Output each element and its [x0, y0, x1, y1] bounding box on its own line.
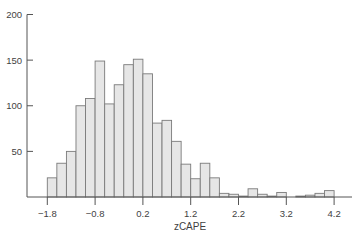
y-tick-label: 100 — [6, 100, 22, 111]
histogram-bar — [57, 163, 67, 197]
histogram-bar — [325, 191, 335, 197]
x-tick-label: 0.2 — [136, 208, 149, 219]
histogram-bar — [210, 178, 220, 197]
y-tick-label: 150 — [6, 55, 22, 66]
x-tick-label: 1.2 — [184, 208, 197, 219]
histogram-bar — [191, 179, 201, 197]
histogram-bar — [76, 106, 86, 197]
histogram-bar — [162, 120, 172, 197]
histogram-bar — [114, 85, 124, 197]
x-tick-label: 4.2 — [327, 208, 340, 219]
histogram-chart: 50100150200 −1.8−0.80.21.22.23.24.2 zCAP… — [0, 0, 359, 243]
x-tick-label: −1.8 — [38, 208, 57, 219]
histogram-bar — [315, 193, 325, 197]
x-tick-label: −0.8 — [86, 208, 105, 219]
x-tick-label: 2.2 — [232, 208, 245, 219]
y-tick-label: 50 — [11, 146, 22, 157]
y-axis-ticks: 50100150200 — [6, 9, 33, 157]
x-axis-ticks: −1.8−0.80.21.22.23.24.2 — [38, 197, 341, 219]
x-tick-label: 3.2 — [280, 208, 293, 219]
histogram-bar — [181, 164, 191, 197]
histogram-bar — [172, 141, 182, 197]
x-axis-title: zCAPE — [174, 221, 207, 232]
y-tick-label: 200 — [6, 9, 22, 20]
histogram-bars — [47, 59, 334, 197]
histogram-bar — [105, 104, 115, 197]
histogram-bar — [47, 178, 57, 197]
histogram-bar — [248, 189, 258, 197]
histogram-bar — [133, 59, 143, 197]
histogram-bar — [143, 74, 153, 197]
histogram-bar — [219, 193, 229, 197]
histogram-bar — [86, 98, 96, 197]
histogram-bar — [95, 61, 105, 197]
histogram-bar — [124, 65, 134, 197]
histogram-bar — [66, 151, 76, 197]
histogram-bar — [277, 192, 287, 197]
histogram-bar — [152, 123, 162, 197]
histogram-bar — [200, 163, 210, 197]
